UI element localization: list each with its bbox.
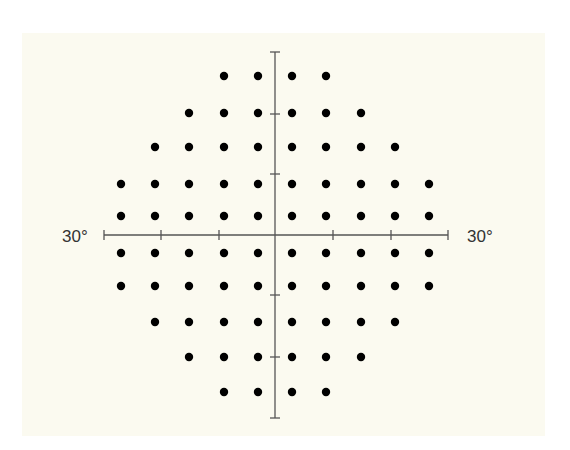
test-point: [357, 282, 365, 290]
test-point: [322, 180, 330, 188]
test-point: [322, 143, 330, 151]
test-point: [185, 212, 193, 220]
test-point: [357, 318, 365, 326]
test-point: [288, 388, 296, 396]
test-point: [357, 249, 365, 257]
test-point: [288, 72, 296, 80]
test-point: [288, 109, 296, 117]
test-point: [151, 180, 159, 188]
test-point: [254, 282, 262, 290]
test-point: [151, 282, 159, 290]
test-point: [220, 212, 228, 220]
test-point: [185, 180, 193, 188]
test-point: [391, 180, 399, 188]
test-point: [220, 353, 228, 361]
test-point: [185, 249, 193, 257]
test-point: [254, 388, 262, 396]
test-point: [151, 318, 159, 326]
visual-field-test-grid: [0, 0, 570, 450]
test-point: [425, 249, 433, 257]
test-point: [322, 388, 330, 396]
test-point: [220, 282, 228, 290]
test-point: [322, 212, 330, 220]
test-point: [391, 143, 399, 151]
test-point: [288, 143, 296, 151]
test-point: [254, 109, 262, 117]
test-point: [151, 212, 159, 220]
test-point: [357, 143, 365, 151]
test-point: [322, 109, 330, 117]
test-point: [391, 318, 399, 326]
test-point: [288, 212, 296, 220]
test-point: [185, 282, 193, 290]
test-point: [220, 318, 228, 326]
test-point: [185, 353, 193, 361]
test-point: [254, 353, 262, 361]
test-point: [288, 318, 296, 326]
axes: [104, 52, 448, 418]
test-point: [117, 282, 125, 290]
test-point: [391, 212, 399, 220]
test-point: [185, 318, 193, 326]
test-point: [254, 143, 262, 151]
test-point: [425, 180, 433, 188]
test-point: [391, 249, 399, 257]
test-point: [151, 249, 159, 257]
test-point: [288, 353, 296, 361]
test-point: [254, 249, 262, 257]
test-point: [357, 109, 365, 117]
test-point: [185, 109, 193, 117]
test-point: [357, 212, 365, 220]
test-point: [220, 180, 228, 188]
test-point: [220, 143, 228, 151]
test-point: [425, 212, 433, 220]
test-point: [254, 212, 262, 220]
test-point: [254, 72, 262, 80]
test-point: [357, 180, 365, 188]
left-eccentricity-label: 30°: [62, 228, 88, 245]
test-point: [254, 318, 262, 326]
test-point: [117, 180, 125, 188]
test-point: [220, 109, 228, 117]
test-point: [425, 282, 433, 290]
test-point: [151, 143, 159, 151]
test-point: [322, 282, 330, 290]
test-point: [391, 282, 399, 290]
test-point: [220, 72, 228, 80]
test-point: [322, 353, 330, 361]
test-point: [288, 180, 296, 188]
test-point: [322, 318, 330, 326]
right-eccentricity-label: 30°: [467, 228, 493, 245]
test-point: [117, 249, 125, 257]
test-point: [288, 282, 296, 290]
test-point: [117, 212, 125, 220]
test-point: [357, 353, 365, 361]
test-point: [322, 249, 330, 257]
test-point: [254, 180, 262, 188]
test-point: [288, 249, 296, 257]
test-point: [220, 388, 228, 396]
test-point: [185, 143, 193, 151]
test-point: [220, 249, 228, 257]
test-point: [322, 72, 330, 80]
